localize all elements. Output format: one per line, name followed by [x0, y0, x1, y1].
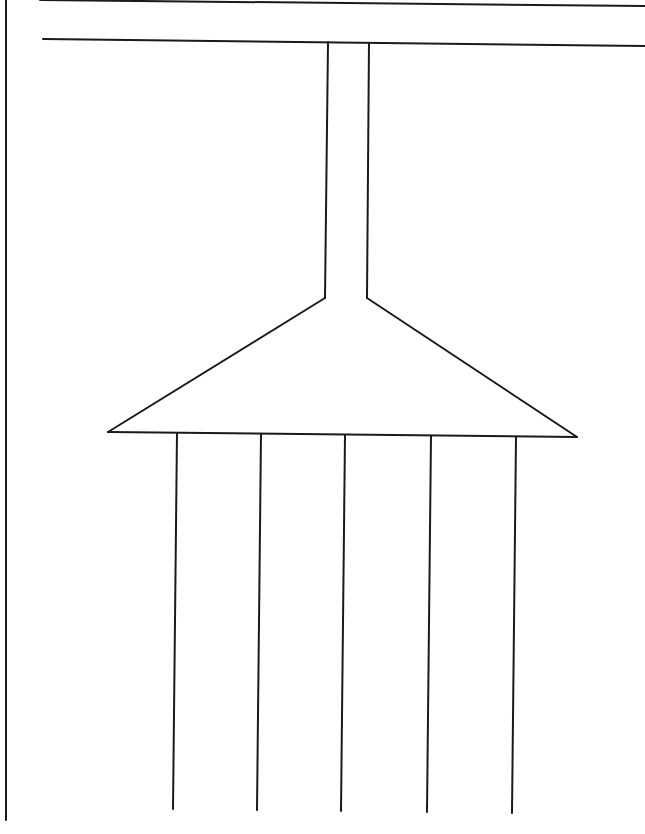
top-line — [40, 0, 645, 6]
distributor-base — [108, 432, 577, 437]
outlet-pipe-3 — [341, 435, 345, 811]
distributor-left-side — [108, 298, 325, 432]
outlet-pipe-1 — [173, 433, 177, 809]
duct-left-wall — [325, 42, 328, 298]
duct-right-wall — [367, 43, 369, 298]
header-pipe-line — [43, 39, 645, 46]
distributor-right-side — [367, 298, 577, 437]
outlet-pipe-2 — [257, 434, 261, 810]
manifold-diagram — [0, 0, 645, 834]
outlet-pipe-5 — [512, 437, 516, 813]
outlet-pipe-4 — [427, 436, 431, 812]
